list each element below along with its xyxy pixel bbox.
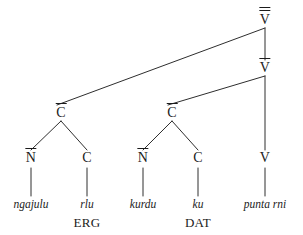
tree-node-v-bar: V [259,61,270,75]
node-category-letter: C [193,150,203,165]
tree-node-c-bar-2: C [167,106,178,120]
node-symbol: N [25,151,36,165]
syntax-tree-figure: VVCCNCNCV ngajulurluERGkurdukuDATpunta r… [0,0,303,235]
tree-node-n-bar-2: N [137,151,148,165]
node-symbol: C [167,106,178,120]
node-symbol: V [259,151,270,165]
node-category-letter: C [56,105,66,120]
tree-branch-line [172,121,198,150]
terminal-word-word-3: kurdu [130,199,156,211]
tree-node-c-bar-1: C [56,106,67,120]
tree-node-n-bar-1: N [25,151,36,165]
node-category-letter: V [260,60,270,75]
terminal-gloss-word-2: ERG [74,216,101,229]
node-category-letter: C [167,105,177,120]
tree-branch-line [143,121,172,150]
tree-node-c-1: C [82,151,93,165]
tree-branch-line [31,121,61,150]
node-symbol: V [259,13,270,27]
tree-branch-line [61,121,87,150]
node-symbol: C [193,151,204,165]
node-category-letter: C [82,150,92,165]
node-bar-overline [259,10,270,11]
tree-branch-line [57,28,265,105]
node-category-letter: V [260,150,270,165]
terminal-gloss-word-4: DAT [185,216,211,229]
terminal-word-word-2: rlu [80,199,93,211]
tree-node-c-2: C [193,151,204,165]
terminal-word-word-1: ngajulu [13,199,48,211]
node-category-letter: N [26,150,36,165]
node-symbol: C [82,151,93,165]
tree-branch-line [168,76,265,105]
node-symbol: V [259,61,270,75]
tree-node-v-double-bar: V [259,13,270,27]
terminal-word-word-4: ku [193,199,204,211]
node-symbol: C [56,106,67,120]
node-bar-overline [167,103,178,104]
node-symbol: N [137,151,148,165]
terminal-word-word-5: punta rni [244,199,287,211]
tree-node-v-head: V [259,151,270,165]
node-bar-overline [259,58,270,59]
node-bar-overline [259,7,270,8]
node-category-letter: V [260,12,270,27]
node-bar-overline [56,103,67,104]
node-category-letter: N [138,150,148,165]
node-bar-overline [25,148,36,149]
node-bar-overline [137,148,148,149]
